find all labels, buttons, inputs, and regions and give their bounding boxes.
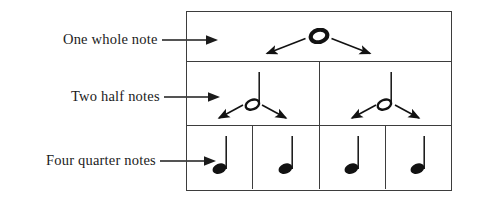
quarter-note-icon <box>407 133 429 179</box>
half-note-icon <box>374 69 396 115</box>
label-one-whole-note: One whole note <box>63 31 158 48</box>
grid-row-quarter-notes <box>187 125 451 189</box>
diagram-canvas: One whole note Two half notes Four quart… <box>0 0 479 209</box>
grid-cell-whole-1 <box>187 12 451 61</box>
half-note-icon <box>242 69 264 115</box>
whole-note-icon <box>308 28 330 44</box>
quarter-note-1 <box>209 133 231 183</box>
label-two-half-notes: Two half notes <box>71 88 160 105</box>
grid-cell-quarter-3 <box>319 126 385 189</box>
grid-cell-quarter-2 <box>252 126 318 189</box>
half-note-2 <box>374 69 396 119</box>
quarter-note-icon <box>275 133 297 179</box>
quarter-note-icon <box>341 133 363 179</box>
grid-cell-half-1 <box>187 62 319 125</box>
grid-row-whole-note <box>187 12 451 61</box>
note-value-grid <box>186 11 452 191</box>
grid-row-half-notes <box>187 61 451 125</box>
quarter-note-4 <box>407 133 429 183</box>
whole-note <box>308 28 330 48</box>
grid-cell-quarter-1 <box>187 126 252 189</box>
grid-cell-half-2 <box>319 62 452 125</box>
quarter-note-2 <box>275 133 297 183</box>
grid-cell-quarter-4 <box>385 126 451 189</box>
quarter-note-3 <box>341 133 363 183</box>
half-note-1 <box>242 69 264 119</box>
label-four-quarter-notes: Four quarter notes <box>46 152 156 169</box>
quarter-note-icon <box>209 133 231 179</box>
